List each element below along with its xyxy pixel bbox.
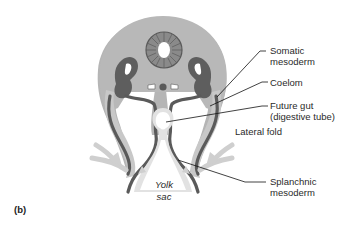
yolk-sac-label: Yolk sac <box>150 179 178 203</box>
left-dorsal-aorta <box>148 84 155 89</box>
coelom-label: Coelom <box>270 77 303 88</box>
somatic-mesoderm-label: Somatic mesoderm <box>270 45 315 67</box>
splanchnic-mesoderm-label: Splanchnic mesoderm <box>270 176 316 198</box>
notochord <box>159 83 166 90</box>
neural-canal <box>158 42 170 58</box>
future-gut-label: Future gut (digestive tube) <box>270 100 335 122</box>
right-dorsal-aorta <box>171 84 178 89</box>
lateral-fold-label: Lateral fold <box>235 126 282 137</box>
panel-label: (b) <box>14 204 26 215</box>
